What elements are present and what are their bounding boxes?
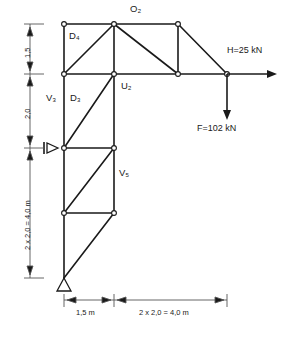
load-label-F: F=102 kN: [197, 124, 236, 133]
h-dim-arrow-right-b: [117, 297, 126, 303]
v-dim-arrow-down-b: [27, 77, 33, 86]
vertical-dim-label-3: 2 x 2,0 = 4,0 m: [24, 200, 32, 250]
load-arrow-horizontal: [227, 70, 277, 78]
support-roller-horizontal: [44, 142, 58, 154]
v-dim-arrow-down-c: [27, 151, 33, 160]
roller-triangle-icon: [47, 143, 58, 153]
member-diagonal-mid: [114, 24, 178, 74]
f-load-arrowhead-icon: [223, 110, 231, 120]
horizontal-dim-label-1: 1,5 m: [76, 309, 95, 317]
member-column-diagonal-2: [64, 148, 114, 213]
h-dim-arrow-left-a: [102, 297, 111, 303]
member-label-U2: U₂: [121, 81, 132, 91]
joint-node: [112, 211, 117, 216]
member-label-V5: V₅: [119, 168, 129, 178]
support-pin-base: [57, 278, 71, 291]
member-column-diagonal-3: [64, 213, 114, 278]
load-arrow-vertical: [223, 74, 231, 120]
member-label-D4: D₄: [69, 31, 80, 41]
truss-members-group: [64, 24, 227, 278]
member-diagonal-right-end: [178, 24, 227, 74]
joint-node: [62, 146, 67, 151]
load-label-H: H=25 kN: [227, 46, 262, 55]
horizontal-dim-label-2: 2 x 2,0 = 4,0 m: [139, 309, 189, 317]
vertical-dim-label-2: 2,0: [24, 109, 32, 119]
pin-triangle-icon: [57, 278, 71, 291]
h-dim-arrow-left-b: [215, 297, 224, 303]
joint-node: [112, 22, 117, 27]
horizontal-dimension-chain: [64, 294, 227, 307]
h-dim-arrow-right-a: [67, 297, 76, 303]
vertical-dim-label-1: 1,5: [24, 48, 32, 58]
member-column-diagonal-D3: [64, 74, 114, 148]
h-load-arrowhead-icon: [267, 70, 277, 78]
joint-node: [176, 22, 181, 27]
member-label-O2: O₂: [130, 4, 141, 14]
joint-node: [62, 211, 67, 216]
member-label-V3: V₃: [46, 93, 56, 103]
joint-node: [62, 22, 67, 27]
joint-node: [112, 146, 117, 151]
v-dim-arrow-up-b: [27, 136, 33, 145]
joint-node: [112, 72, 117, 77]
joint-node: [62, 72, 67, 77]
member-label-D3: D₃: [70, 93, 81, 103]
truss-diagram-canvas: O₂ D₄ U₂ V₃ D₃ V₅ H=25 kN F=102 kN 1,5 2…: [0, 0, 287, 340]
v-dim-arrow-up-c: [27, 266, 33, 275]
v-dim-arrow-down-a: [27, 27, 33, 36]
v-dim-arrow-up-a: [27, 62, 33, 71]
joint-node: [176, 72, 181, 77]
